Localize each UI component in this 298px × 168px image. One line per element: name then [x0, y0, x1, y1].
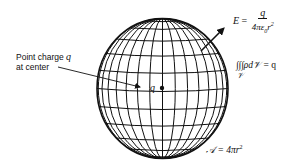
volume-integral-equation: ∫∫∫ρd𝒱 = q	[236, 60, 276, 71]
field-eq: =	[242, 15, 248, 26]
field-equation: E = q 4πε0r2	[233, 7, 276, 37]
center-charge-label: q	[150, 82, 155, 93]
area-eq: = 4πr	[217, 145, 239, 155]
area-symbol: 𝒜	[206, 145, 215, 155]
field-numerator: q	[258, 7, 267, 19]
point-charge-label: Point charge q at center	[16, 52, 71, 72]
field-denominator: 4πε0r2	[250, 19, 276, 37]
center-charge-dot	[160, 86, 164, 90]
integral-expr: ∫∫∫ρd	[236, 60, 253, 70]
den-exp: 2	[271, 21, 274, 27]
gauss-law-sphere-diagram: Point charge q at center q E = q 4πε0r2 …	[0, 0, 298, 168]
area-equation: 𝒜 = 4πr2	[206, 144, 242, 156]
field-fraction: q 4πε0r2	[250, 7, 276, 37]
area-exp: 2	[239, 144, 242, 150]
field-E: E	[233, 15, 239, 26]
volume-symbol: 𝒱	[253, 60, 261, 70]
label-line2: at center	[16, 62, 71, 72]
den-main: 4πε	[252, 22, 265, 32]
integral-subscript: 𝒱	[237, 71, 244, 81]
label-line1: Point charge	[16, 52, 64, 62]
integral-eq: = q	[264, 60, 276, 70]
label-q: q	[66, 51, 71, 62]
